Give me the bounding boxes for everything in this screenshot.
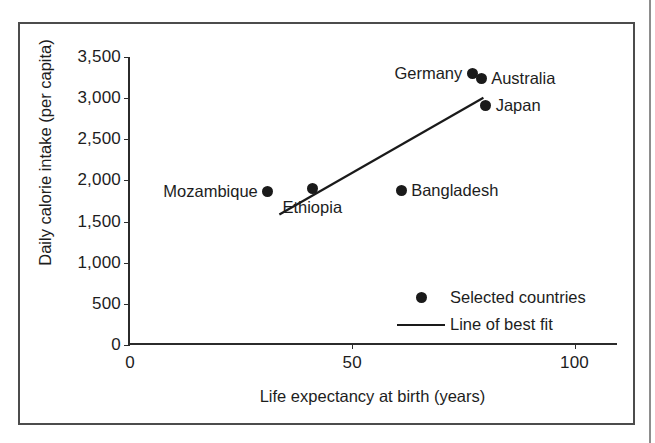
x-axis-tick xyxy=(575,343,576,349)
y-axis-tick-label: 2,000 xyxy=(77,170,121,190)
y-axis-tick xyxy=(124,57,130,58)
y-axis-tick xyxy=(124,98,130,99)
legend-label-selected-countries: Selected countries xyxy=(450,288,586,307)
legend-line-icon xyxy=(392,324,450,326)
chart-legend: Selected countries Line of best fit xyxy=(392,284,586,338)
legend-dot-icon xyxy=(392,292,450,303)
y-axis-title: Daily calorie intake (per capita) xyxy=(36,3,55,303)
data-point-label: Australia xyxy=(491,69,555,88)
y-axis-tick xyxy=(124,263,130,264)
x-axis-tick-label: 50 xyxy=(343,353,362,373)
scatter-plot-figure: Selected countries Line of best fit 0500… xyxy=(0,0,655,443)
y-axis-tick-label: 3,500 xyxy=(77,47,121,67)
y-axis-tick-label: 3,000 xyxy=(77,88,121,108)
x-axis-tick-label: 0 xyxy=(125,353,135,373)
x-axis-tick-label: 100 xyxy=(560,353,589,373)
y-axis-tick-label: 1,000 xyxy=(77,253,121,273)
y-axis-tick xyxy=(124,345,130,346)
x-axis-tick xyxy=(352,343,353,349)
y-axis-tick-label: 0 xyxy=(111,335,121,355)
data-point-label: Japan xyxy=(496,96,541,115)
data-point-label: Germany xyxy=(394,64,462,83)
data-point-label: Ethiopia xyxy=(282,198,342,217)
data-point xyxy=(307,183,318,194)
y-axis-tick xyxy=(124,222,130,223)
plot-inner: Selected countries Line of best fit 0500… xyxy=(130,57,617,343)
data-point-label: Mozambique xyxy=(163,182,257,201)
data-point-label: Bangladesh xyxy=(411,181,498,200)
y-axis-tick-label: 1,500 xyxy=(77,212,121,232)
data-point xyxy=(262,186,273,197)
data-point xyxy=(480,100,491,111)
y-axis-tick xyxy=(124,304,130,305)
data-point xyxy=(396,185,407,196)
y-axis-tick-label: 2,500 xyxy=(77,129,121,149)
legend-label-line-of-best-fit: Line of best fit xyxy=(450,315,553,334)
y-axis-tick xyxy=(124,139,130,140)
y-axis-tick-label: 500 xyxy=(92,294,121,314)
x-axis-title: Life expectancy at birth (years) xyxy=(128,387,617,406)
page-edge-rule xyxy=(649,0,651,443)
legend-entry-line-of-best-fit: Line of best fit xyxy=(392,311,586,338)
data-point xyxy=(476,73,487,84)
y-axis-tick xyxy=(124,180,130,181)
plot-area: Selected countries Line of best fit 0500… xyxy=(128,57,617,345)
legend-entry-selected-countries: Selected countries xyxy=(392,284,586,311)
